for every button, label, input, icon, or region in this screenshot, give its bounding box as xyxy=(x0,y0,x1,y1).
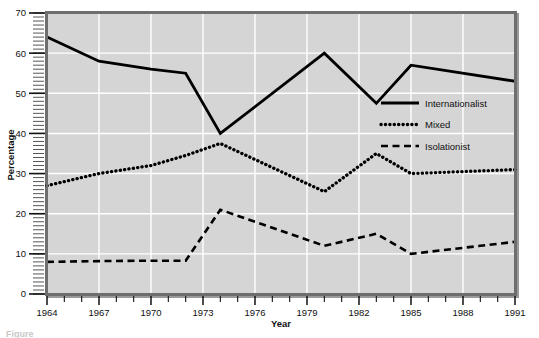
figure-root: 010203040506070 196419671970197319761979… xyxy=(0,0,539,338)
x-tick-label: 1988 xyxy=(452,307,473,318)
y-tick-label: 0 xyxy=(21,288,26,299)
line-chart: 010203040506070 196419671970197319761979… xyxy=(0,0,539,338)
y-tick-label: 70 xyxy=(15,7,26,18)
y-tick-label: 50 xyxy=(15,88,26,99)
y-tick-label: 30 xyxy=(15,168,26,179)
x-tick-label: 1970 xyxy=(140,307,161,318)
legend-label-mixed: Mixed xyxy=(425,119,450,130)
y-axis-minor-ticks xyxy=(33,13,44,294)
plot-area-background xyxy=(47,13,515,294)
y-tick-label: 20 xyxy=(15,208,26,219)
legend-label-isolationist: Isolationist xyxy=(425,141,470,152)
x-tick-label: 1964 xyxy=(36,307,57,318)
x-tick-label: 1991 xyxy=(504,307,525,318)
x-axis-title: Year xyxy=(271,318,291,329)
x-axis-tick-labels: 1964196719701973197619791982198519881991 xyxy=(36,307,525,318)
x-tick-label: 1967 xyxy=(88,307,109,318)
y-tick-label: 60 xyxy=(15,48,26,59)
figure-caption: Figure xyxy=(6,329,34,338)
y-axis-tick-labels: 010203040506070 xyxy=(15,7,26,299)
x-tick-label: 1976 xyxy=(244,307,265,318)
x-tick-label: 1985 xyxy=(400,307,421,318)
x-tick-label: 1982 xyxy=(348,307,369,318)
y-tick-label: 40 xyxy=(15,128,26,139)
y-tick-label: 10 xyxy=(15,248,26,259)
x-tick-label: 1979 xyxy=(296,307,317,318)
x-tick-label: 1973 xyxy=(192,307,213,318)
y-axis-title: Percentage xyxy=(5,129,16,180)
legend-label-internationalist: Internationalist xyxy=(425,98,487,109)
